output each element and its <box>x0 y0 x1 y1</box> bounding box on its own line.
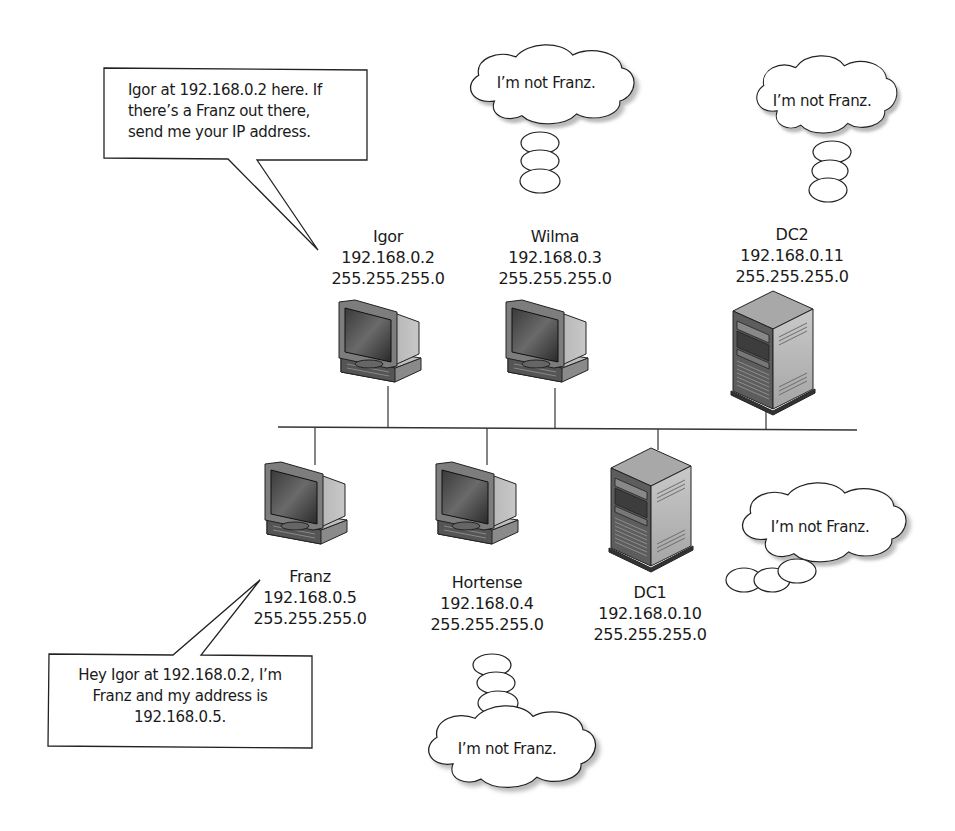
dc1-ip: 192.168.0.10 <box>593 603 706 624</box>
hortense-mask: 255.255.255.0 <box>430 614 543 635</box>
igor-computer-icon <box>339 300 421 382</box>
franz-mask: 255.255.255.0 <box>253 608 366 629</box>
dc1-name: DC1 <box>593 582 706 603</box>
dc2-mask: 255.255.255.0 <box>735 266 848 287</box>
igor-mask: 255.255.255.0 <box>331 268 444 289</box>
wilma-label: Wilma 192.168.0.3 255.255.255.0 <box>498 226 611 289</box>
dc2-label: DC2 192.168.0.11 255.255.255.0 <box>735 224 848 287</box>
hortense-ip: 192.168.0.4 <box>430 593 543 614</box>
hortense-name: Hortense <box>430 572 543 593</box>
franz-speech-line-3: 192.168.0.5. <box>48 707 312 728</box>
wilma-ip: 192.168.0.3 <box>498 247 611 268</box>
hortense-thought-text: I’m not Franz. <box>458 740 557 758</box>
igor-label: Igor 192.168.0.2 255.255.255.0 <box>331 226 444 289</box>
hortense-computer-icon <box>436 462 518 544</box>
dc2-server-icon <box>731 291 815 415</box>
wilma-computer-icon <box>506 300 588 382</box>
franz-speech-text: Hey Igor at 192.168.0.2, I’m Franz and m… <box>48 665 312 728</box>
dc2-thought-cloud <box>757 56 897 202</box>
hortense-label: Hortense 192.168.0.4 255.255.255.0 <box>430 572 543 635</box>
igor-name: Igor <box>331 226 444 247</box>
igor-ip: 192.168.0.2 <box>331 247 444 268</box>
dc1-mask: 255.255.255.0 <box>593 624 706 645</box>
dc2-thought-text: I’m not Franz. <box>773 92 872 110</box>
wilma-mask: 255.255.255.0 <box>498 268 611 289</box>
dc1-server-icon <box>609 448 693 572</box>
wilma-thought-cloud <box>471 45 635 193</box>
franz-computer-icon <box>265 462 347 544</box>
dc1-thought-text: I’m not Franz. <box>771 518 870 536</box>
igor-speech-line-3: send me your IP address. <box>128 122 322 143</box>
wilma-thought-text: I’m not Franz. <box>497 74 596 92</box>
dc1-thought-cloud <box>726 483 906 592</box>
dc1-label: DC1 192.168.0.10 255.255.255.0 <box>593 582 706 645</box>
franz-ip: 192.168.0.5 <box>253 587 366 608</box>
igor-speech-line-2: there’s a Franz out there, <box>128 101 322 122</box>
franz-speech-line-2: Franz and my address is <box>48 686 312 707</box>
igor-speech-line-1: Igor at 192.168.0.2 here. If <box>128 80 322 101</box>
igor-speech-text: Igor at 192.168.0.2 here. If there’s a F… <box>128 80 322 143</box>
franz-name: Franz <box>253 566 366 587</box>
franz-speech-line-1: Hey Igor at 192.168.0.2, I’m <box>48 665 312 686</box>
dc2-ip: 192.168.0.11 <box>735 245 848 266</box>
franz-label: Franz 192.168.0.5 255.255.255.0 <box>253 566 366 629</box>
hortense-thought-cloud <box>429 654 596 787</box>
dc2-name: DC2 <box>735 224 848 245</box>
wilma-name: Wilma <box>498 226 611 247</box>
